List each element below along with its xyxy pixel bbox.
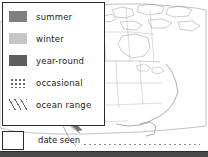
year-round-swatch-icon: [9, 55, 27, 66]
ocean-range-swatch-icon: [9, 99, 27, 110]
date-seen-input-line[interactable]: [84, 144, 200, 145]
legend-item-summer: summer: [3, 6, 106, 27]
legend-item-year-round: year-round: [3, 50, 106, 71]
summer-swatch-icon: [9, 11, 27, 22]
legend-item-occasional: occasional: [3, 72, 106, 93]
legend-item-winter: winter: [3, 28, 106, 49]
legend-label-ocean-range: ocean range: [36, 100, 91, 110]
atlantic-coastline: [140, 64, 178, 124]
occasional-swatch-icon: [9, 77, 27, 88]
date-seen-label: date seen: [38, 135, 80, 145]
legend-label-year-round: year-round: [36, 56, 84, 66]
date-seen-row: date seen: [2, 129, 204, 151]
hudson-bay: [118, 34, 150, 58]
arctic-islands: [104, 4, 200, 31]
bottom-bar: [0, 151, 208, 157]
date-seen-checkbox[interactable]: [2, 131, 24, 150]
legend-item-ocean-range: ocean range: [3, 94, 106, 115]
legend-label-summer: summer: [36, 12, 72, 22]
map-legend-panel: summer winter year-round occasional ocea…: [2, 2, 105, 126]
winter-swatch-icon: [9, 33, 27, 44]
legend-label-winter: winter: [36, 34, 64, 44]
legend-label-occasional: occasional: [36, 78, 83, 88]
